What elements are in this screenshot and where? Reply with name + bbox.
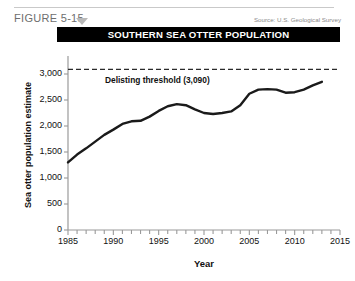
x-tick-label: 2010 [275, 236, 315, 246]
x-tick-label: 1990 [93, 236, 133, 246]
y-tick-label: 1,500 [20, 146, 62, 156]
y-tick-label: 2,000 [20, 120, 62, 130]
y-tick-label: 500 [20, 198, 62, 208]
x-tick-label: 2005 [229, 236, 269, 246]
y-tick-label: 0 [20, 224, 62, 234]
delisting-threshold-label: Delisting threshold (3,090) [105, 75, 210, 85]
data-line [68, 82, 322, 163]
y-axis-title: Sea otter population estimate [23, 55, 33, 235]
x-axis-title: Year [68, 258, 340, 269]
y-tick-label: 1,000 [20, 172, 62, 182]
y-tick-label: 2,500 [20, 94, 62, 104]
x-tick-label: 2015 [320, 236, 355, 246]
x-tick-label: 2000 [184, 236, 224, 246]
x-tick-label: 1985 [48, 236, 88, 246]
x-tick-label: 1995 [139, 236, 179, 246]
y-tick-label: 3,000 [20, 68, 62, 78]
